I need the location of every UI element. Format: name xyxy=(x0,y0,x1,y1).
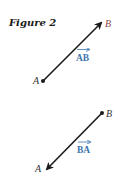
figure-title: Figure 2 xyxy=(8,17,56,28)
vector-ba-label: BA xyxy=(77,145,90,155)
figure-canvas: Figure 2 A B AB B A BA xyxy=(0,0,127,183)
point-b2-dot xyxy=(100,111,104,115)
vector-ba: B A BA xyxy=(34,108,112,174)
point-b2-label: B xyxy=(106,108,112,119)
point-a-dot xyxy=(41,79,45,83)
point-b-label: B xyxy=(105,18,111,29)
point-a2-label: A xyxy=(34,163,42,174)
vector-ba-line xyxy=(47,113,102,169)
point-a-label: A xyxy=(32,75,40,86)
vector-ab: A B AB xyxy=(32,18,111,86)
vector-ab-line xyxy=(43,23,101,81)
vector-ab-label: AB xyxy=(76,53,90,63)
